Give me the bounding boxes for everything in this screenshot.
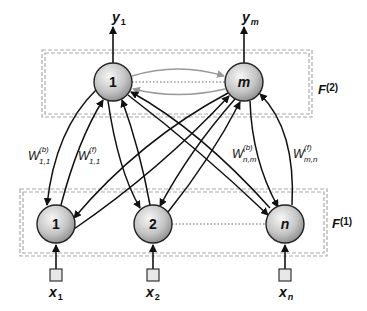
output-label-ym: ym: [242, 9, 259, 27]
weight-label-f-11: W(f)1,1: [78, 150, 89, 162]
weight-label-f-mn: W(f)m,n: [293, 148, 304, 160]
lateral-connections-f2: [132, 69, 225, 95]
node-label-f2-1: 1: [94, 74, 132, 90]
input-label-x2: x2: [146, 284, 160, 302]
neural-network-diagram: 1 m 1 2 n y1 ym x1 x2 xn F(2) F(1) W(b)1…: [0, 0, 367, 311]
layer-label-f1: F(1): [332, 216, 352, 231]
input-label-xn: xn: [279, 284, 293, 302]
output-label-y1: y1: [112, 9, 126, 27]
node-label-f2-m: m: [225, 74, 263, 90]
weight-label-b-11: W(b)1,1: [28, 150, 39, 162]
node-label-f1-1: 1: [37, 216, 75, 232]
input-squares: [50, 269, 291, 281]
input-label-x1: x1: [49, 284, 63, 302]
layer-label-f2: F(2): [318, 82, 338, 97]
weight-label-b-nm: W(b)n,m: [232, 148, 243, 160]
input-square-x1: [50, 269, 62, 281]
node-label-f1-2: 2: [134, 216, 172, 232]
input-square-x2: [147, 269, 159, 281]
input-arrows: [56, 245, 285, 269]
input-square-xn: [279, 269, 291, 281]
node-label-f1-n: n: [266, 216, 304, 232]
